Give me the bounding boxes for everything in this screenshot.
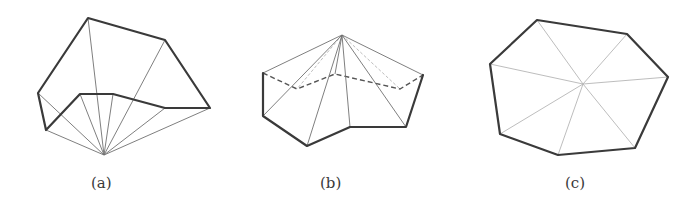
panel-b-hidden-base <box>263 73 423 89</box>
figure-canvas: (a) (b) (c) <box>0 0 694 210</box>
panel-a-fan-lines <box>38 18 210 155</box>
panel-c-label: (c) <box>565 174 585 192</box>
panel-a-label: (a) <box>91 174 112 192</box>
panel-b-label: (b) <box>320 174 341 192</box>
panel-a <box>38 18 210 155</box>
panel-c <box>490 20 668 155</box>
panel-b-hidden-edges <box>297 35 400 89</box>
panel-b <box>263 35 423 146</box>
panel-c-boundary <box>490 20 668 155</box>
panel-a-outer-boundary <box>38 18 210 130</box>
